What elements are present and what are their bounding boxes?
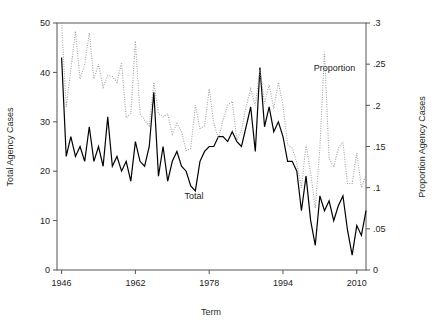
- y-axis-right-tick-label: .1: [373, 183, 381, 193]
- y-axis-left-tick-label: 20: [40, 166, 50, 176]
- y-axis-right-tick-label: .3: [373, 18, 381, 28]
- x-axis-tick-label: 2010: [347, 278, 367, 288]
- x-axis-tick-label: 1946: [52, 278, 72, 288]
- y-axis-left-title: Total Agency Cases: [5, 107, 15, 187]
- y-axis-right-tick-label: .25: [373, 59, 386, 69]
- y-axis-right-title: Proportion Agency Cases: [417, 96, 427, 198]
- x-axis-tick-label: 1978: [199, 278, 219, 288]
- y-axis-right-tick-label: .2: [373, 101, 381, 111]
- x-axis-title: Term: [201, 307, 221, 317]
- y-axis-left-tick-label: 10: [40, 216, 50, 226]
- series-label-total: Total: [185, 191, 204, 201]
- series-label-proportion: Proportion: [314, 63, 356, 73]
- chart-background: [0, 0, 437, 325]
- dual-axis-line-chart: 01020304050 0.05.1.15.2.25.3 19461962197…: [0, 0, 437, 325]
- chart-figure: 01020304050 0.05.1.15.2.25.3 19461962197…: [0, 0, 437, 325]
- y-axis-right-tick-label: 0: [373, 265, 378, 275]
- x-axis-tick-label: 1962: [125, 278, 145, 288]
- y-axis-right-tick-label: .05: [373, 224, 386, 234]
- y-axis-right-tick-label: .15: [373, 142, 386, 152]
- x-axis-tick-label: 1994: [273, 278, 293, 288]
- y-axis-left-tick-label: 0: [45, 265, 50, 275]
- y-axis-left-tick-label: 40: [40, 68, 50, 78]
- y-axis-left-tick-label: 50: [40, 18, 50, 28]
- y-axis-left-tick-label: 30: [40, 117, 50, 127]
